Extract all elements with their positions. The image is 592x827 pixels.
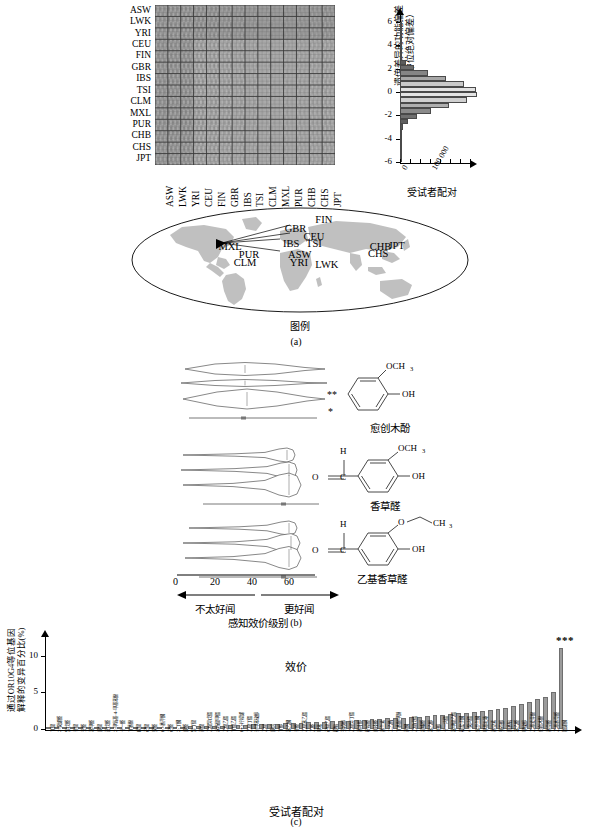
histogram-x-tick-mark [420, 159, 421, 163]
bar-chart-x-tick-label: 壬醛 [82, 724, 86, 732]
bar-chart-x-tick-label: 2-癸烯醛 [58, 716, 62, 732]
bar-chart-x-tick-label: 乙酸 [263, 724, 267, 732]
panel-c: 通过OR10G4等位基因 解释的变异百分比(%) 0510 丁酸2-癸烯醛异戊醛… [0, 630, 592, 827]
bar-chart-x-tick-label: 乙酸异戊酯 [208, 712, 212, 732]
bar-chart-y-tick: 5 [22, 686, 38, 696]
bar-chart-x-tick-label: 丁醇 [279, 724, 283, 732]
map-population-jpt: JPT [388, 240, 404, 251]
histogram-y-tick-mark [396, 22, 400, 23]
bar-chart-x-tick-label: 胡椒醛 [421, 720, 425, 732]
bar-chart-x-tick-label: 庚酸 [98, 724, 102, 732]
valence-direction-right-label: 更好闻 [259, 601, 339, 616]
bar-chart-x-tick-label: 雄烯酮 [563, 720, 567, 732]
histogram-x-axis-label: 受试者配对 [372, 184, 492, 199]
bar-chart-x-tick-label: 薄荷醇 [500, 720, 504, 732]
bar-chart-x-tick-label: 乙酸异丁酯 [350, 712, 354, 732]
histogram-y-tick: 6 [376, 16, 392, 26]
bar-chart-x-tick-label: 2-丁酮 [177, 720, 181, 732]
compound-name-vanillin: 香草醛 [325, 498, 445, 513]
bar-chart-x-tick-label: 乙酸乙酯 [224, 716, 228, 732]
svg-text:OH: OH [402, 389, 415, 399]
bar-chart-x-tick-label: 樟脑 [334, 724, 338, 732]
bar-chart-x-tick-label: 异丁酸 [192, 720, 196, 732]
chemical-structure-ethylvanillin: H C O O CH 3 OH [300, 513, 470, 575]
bar-chart-x-tick-label: 丙酸 [200, 724, 204, 732]
panel-a-caption: (a) [0, 336, 592, 347]
svg-text:OH: OH [412, 471, 425, 481]
bar-chart-x-tick-label: 紫罗兰酮 [476, 716, 480, 732]
panel-a: ASWLWKYRICEUFINGBRIBSTSICLMMXLPURCHBCHSJ… [0, 0, 592, 355]
bar-chart-x-tick-label: 愈创木酚 [539, 716, 543, 732]
heatmap-row-label-ceu: CEU [132, 40, 151, 50]
bar-chart-x-tick-label: 苯乙醛 [515, 720, 519, 732]
bar-chart-x-tick-label: 辛酸 [74, 724, 78, 732]
heatmap-row-label-ibs: IBS [136, 74, 151, 84]
panel-b-caption: (b) [0, 617, 592, 628]
bar-chart-x-tick-label: 苯甲醛 [90, 720, 94, 732]
bar-chart-x-tick-label: 水杨酸甲酯 [216, 712, 220, 732]
bar-chart-x-tick-label: 己酸乙酯 [326, 716, 330, 732]
map-population-lwk: LWK [315, 259, 338, 270]
svg-text:O: O [398, 517, 405, 527]
genetic-difference-histogram: 遗传差异的功能偏差 （中位绝对偏差） 6420-2-4-6 0100 000 受… [356, 8, 506, 198]
histogram-y-tick-mark [396, 92, 400, 93]
bar-chart-x-tick-label: 乙醛 [311, 724, 315, 732]
histogram-y-tick-mark [396, 45, 400, 46]
heatmap-row-label-jpt: JPT [136, 154, 151, 164]
svg-text:H: H [340, 519, 347, 529]
bar-chart-x-tick-label: 苯甲酸乙酯 [452, 712, 456, 732]
heatmap-row-label-asw: ASW [130, 6, 151, 16]
bar-chart-x-tick-label: 香叶醇 [358, 720, 362, 732]
bar-chart-x-tick-label: 香兰素 [381, 720, 385, 732]
heatmap-col-label-lwk: LWK [178, 186, 188, 207]
violin-x-tick-0: 0 [173, 576, 178, 587]
heatmap-row-label-gbr: GBR [131, 63, 151, 73]
bar-chart-x-tick-label: 乙酸苯乙酯 [303, 712, 307, 732]
map-population-ibs: IBS [283, 238, 299, 249]
bar-chart-y-tick-mark [41, 656, 45, 657]
histogram-y-tick: 4 [376, 39, 392, 49]
svg-text:C: C [340, 545, 346, 555]
bar-chart-x-tick-label: 茴香脑 [508, 720, 512, 732]
heatmap-col-label-mxl: MXL [281, 186, 291, 207]
svg-text:3: 3 [410, 365, 413, 372]
bar-chart-y-axis-arrow-icon [41, 630, 49, 637]
violin-x-tick-20: 20 [210, 576, 220, 587]
bar-chart-x-tick-label: 乙基香草醛 [555, 712, 559, 732]
histogram-x-tick-label: 0 [400, 164, 410, 172]
bar-chart-x-tick-label: 肉桂醛 [374, 720, 378, 732]
panel-b: ** * OCH 3 OH 愈创木酚 [0, 355, 592, 630]
bar-chart-y-tick-mark [41, 729, 45, 730]
violin-group-guaiacol: ** * [175, 361, 330, 427]
valence-direction-left-label: 不太好闻 [175, 601, 255, 616]
bar-chart-x-tick-label: 对甲苯硫醇 [255, 712, 259, 732]
bar-chart-x-tick-label: 丁香酚甲醚 [397, 712, 401, 732]
bar-chart-x-tick-label: 庚烷 [271, 724, 275, 732]
map-population-tsi: TSI [306, 238, 322, 249]
histogram-y-tick-mark [396, 69, 400, 70]
svg-text:OCH: OCH [398, 443, 418, 453]
bar-chart-x-tick-label: 乙基麦芽酚 [531, 712, 535, 732]
bar-chart-x-tick-label: γ-癸内酯 [468, 716, 472, 732]
svg-text:C: C [340, 472, 346, 482]
bar-chart-title: 效价 [0, 658, 592, 674]
svg-text:3: 3 [449, 522, 452, 529]
panel-c-caption: (c) [0, 816, 592, 827]
chemical-structure-vanillin: H C O OCH 3 OH [300, 440, 460, 502]
bar-chart-x-tick-label: 己醛 [169, 724, 173, 732]
bar-chart-x-tick-label: 香豆素 [492, 720, 496, 732]
bar-chart-x-tick-label: 芳樟醇 [342, 720, 346, 732]
histogram-bars [400, 22, 480, 162]
bar-chart-x-tick-label: 乙酸丁酯 [248, 716, 252, 732]
bar-chart-x-tick-label: 癸醛 [153, 724, 157, 732]
bar-chart-x-tick-label: 甲硫醇 [523, 720, 527, 732]
map-population-chs: CHS [368, 248, 388, 259]
bar-chart-x-tick-label: 丁酸 [51, 724, 55, 732]
heatmap [155, 5, 335, 165]
bar-chart-significance-marker: *** [556, 634, 574, 646]
bar-chart-y-tick: 0 [22, 723, 38, 733]
bar-chart-x-tick-label: 苯乙酮 [287, 720, 291, 732]
histogram-x-tick-mark [430, 159, 431, 163]
histogram-y-tick-mark [396, 115, 400, 116]
histogram-x-tick-mark [460, 159, 461, 163]
